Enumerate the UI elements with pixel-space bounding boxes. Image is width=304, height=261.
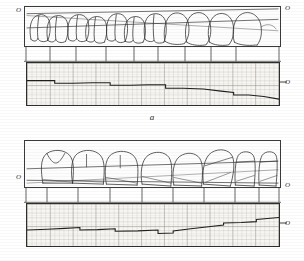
axis-label-left-b: O	[16, 174, 21, 181]
occlusal-curve-graph-a	[26, 62, 280, 106]
figure-panel-b: O O	[0, 128, 304, 261]
tooth-row-outline-svg-a	[25, 7, 280, 46]
divider-ticks-svg-a	[24, 47, 281, 62]
divider-ticks-svg-b	[24, 188, 281, 203]
occlusal-curve-graph-b	[26, 203, 280, 247]
graph-grid-major-a	[27, 63, 279, 105]
tooth-row-profile-b	[24, 140, 281, 188]
tooth-row-outline-svg-b	[25, 141, 280, 187]
tooth-divider-strip-b	[24, 188, 281, 203]
tooth-row-profile-a	[24, 6, 281, 47]
figure-page: O O	[0, 0, 304, 261]
axis-label-left-a: O	[16, 7, 21, 14]
tooth-divider-strip-a	[24, 47, 281, 62]
axis-label-right-b: O	[285, 182, 290, 189]
figure-caption-a: a	[0, 112, 304, 122]
graph-svg-a	[27, 63, 279, 105]
axis-label-right-a: O	[285, 5, 290, 12]
axis-tick-a	[279, 80, 287, 84]
graph-svg-b	[27, 204, 279, 246]
graph-grid-major-b	[27, 204, 279, 246]
figure-panel-a: O O	[0, 0, 304, 128]
axis-tick-b	[279, 221, 287, 225]
